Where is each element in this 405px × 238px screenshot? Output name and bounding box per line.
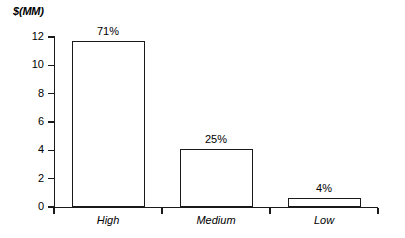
- bar-value-label-medium: 25%: [186, 133, 246, 145]
- bar-chart: $(MM) 024681012 71%25%4% HighMediumLow: [0, 0, 405, 238]
- x-axis-tick: [161, 208, 162, 214]
- x-axis-tick: [269, 208, 270, 214]
- bar-high: [72, 41, 145, 207]
- y-axis-tick: [48, 65, 54, 66]
- y-axis-tick: [48, 178, 54, 179]
- y-axis-tick: [48, 150, 54, 151]
- x-axis-tick: [53, 208, 54, 214]
- y-axis-line: [54, 36, 55, 208]
- y-axis-tick-label: 4: [14, 143, 44, 155]
- y-axis-unit-label: $(MM): [13, 5, 44, 17]
- y-axis-tick: [48, 121, 54, 122]
- x-axis-label-low: Low: [274, 214, 374, 226]
- y-axis-tick-label: 8: [14, 87, 44, 99]
- y-axis-tick-label: 2: [14, 172, 44, 184]
- y-axis-tick: [48, 36, 54, 37]
- y-axis-tick-label: 12: [14, 30, 44, 42]
- y-axis-tick-label: 0: [14, 200, 44, 212]
- bar-medium: [180, 149, 253, 207]
- x-axis-label-medium: Medium: [166, 214, 266, 226]
- y-axis-tick-label: 6: [14, 115, 44, 127]
- x-axis-label-high: High: [58, 214, 158, 226]
- bar-low: [288, 198, 361, 207]
- bar-value-label-high: 71%: [78, 25, 138, 37]
- x-axis-tick: [377, 208, 378, 214]
- y-axis-tick: [48, 93, 54, 94]
- y-axis-tick-label: 10: [14, 58, 44, 70]
- bar-value-label-low: 4%: [294, 182, 354, 194]
